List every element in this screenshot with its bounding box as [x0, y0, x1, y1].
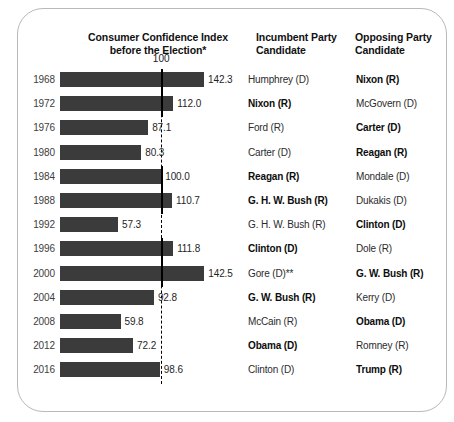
bar	[60, 145, 141, 160]
bar-value-label: 110.7	[176, 195, 200, 206]
opposing-candidate: McGovern (D)	[356, 98, 417, 109]
bar	[60, 169, 161, 184]
opposing-candidate: Kerry (D)	[356, 292, 395, 303]
bar-value-label: 92.8	[158, 292, 177, 303]
row-year-label: 2000	[25, 268, 55, 279]
bar	[60, 96, 173, 111]
bar-value-label: 111.8	[177, 243, 200, 254]
bar	[60, 193, 172, 208]
bar	[60, 217, 118, 232]
chart-card: Consumer Confidence Index before the Ele…	[17, 8, 447, 412]
opposing-candidate: Romney (R)	[356, 340, 408, 351]
chart-row: 1984100.0Reagan (R)Mondale (D)	[17, 166, 447, 190]
chart-row: 1996111.8Clinton (D)Dole (R)	[17, 238, 447, 262]
chart-row: 201698.6Clinton (D)Trump (R)	[17, 359, 447, 383]
incumbent-candidate: Obama (D)	[248, 340, 297, 351]
opposing-candidate: Trump (R)	[356, 364, 402, 375]
bar-value-label: 59.8	[125, 316, 144, 327]
bar-value-label: 87.1	[152, 122, 171, 133]
bar-value-label: 100.0	[165, 171, 190, 182]
row-year-label: 2004	[25, 292, 55, 303]
opposing-candidate: Obama (D)	[356, 316, 405, 327]
bar-value-label: 112.0	[177, 98, 201, 109]
chart-row: 197687.1Ford (R)Carter (D)	[17, 117, 447, 141]
bar	[60, 362, 160, 377]
chart-row: 1972112.0Nixon (R)McGovern (D)	[17, 93, 447, 117]
incumbent-candidate: G. H. W. Bush (R)	[248, 195, 328, 206]
bar-value-label: 142.5	[208, 268, 233, 279]
opposing-candidate: Mondale (D)	[356, 171, 409, 182]
row-year-label: 2016	[25, 364, 55, 375]
opposing-candidate: Nixon (R)	[356, 74, 399, 85]
reference-line-segment	[161, 238, 163, 262]
incumbent-candidate: Clinton (D)	[248, 364, 294, 375]
chart-row: 199257.3G. H. W. Bush (R)Clinton (D)	[17, 214, 447, 238]
bar-chart-plot: 1001968142.3Humphrey (D)Nixon (R)1972112…	[18, 9, 447, 412]
row-year-label: 1968	[25, 74, 55, 85]
chart-row: 198080.3Carter (D)Reagan (R)	[17, 142, 447, 166]
bar-value-label: 98.6	[164, 364, 183, 375]
incumbent-candidate: Carter (D)	[248, 147, 291, 158]
incumbent-candidate: Clinton (D)	[248, 243, 297, 254]
opposing-candidate: Clinton (D)	[356, 219, 405, 230]
row-year-label: 2012	[25, 340, 55, 351]
bar	[60, 290, 154, 305]
reference-line-segment	[161, 263, 163, 287]
bar	[60, 241, 173, 256]
opposing-candidate: Carter (D)	[356, 122, 401, 133]
row-year-label: 1972	[25, 98, 55, 109]
incumbent-candidate: G. W. Bush (R)	[248, 292, 315, 303]
chart-row: 1988110.7G. H. W. Bush (R)Dukakis (D)	[17, 190, 447, 214]
opposing-candidate: Reagan (R)	[356, 147, 407, 158]
chart-row: 201272.2Obama (D)Romney (R)	[17, 335, 447, 359]
bar	[60, 338, 133, 353]
reference-line-segment	[161, 190, 163, 214]
bar	[60, 120, 148, 135]
bar-value-label: 80.3	[145, 147, 164, 158]
reference-line-segment	[161, 93, 163, 117]
incumbent-candidate: McCain (R)	[248, 316, 297, 327]
bar-value-label: 142.3	[208, 74, 233, 85]
chart-row: 200492.8G. W. Bush (R)Kerry (D)	[17, 287, 447, 311]
opposing-candidate: Dukakis (D)	[356, 195, 407, 206]
bar-value-label: 57.3	[122, 219, 141, 230]
row-year-label: 1984	[25, 171, 55, 182]
opposing-candidate: Dole (R)	[356, 243, 392, 254]
incumbent-candidate: Humphrey (D)	[248, 74, 309, 85]
chart-row: 200859.8McCain (R)Obama (D)	[17, 311, 447, 335]
row-year-label: 1992	[25, 219, 55, 230]
incumbent-candidate: G. H. W. Bush (R)	[248, 219, 325, 230]
bar	[60, 266, 204, 281]
chart-row: 1968142.3Humphrey (D)Nixon (R)	[17, 69, 447, 93]
reference-line-label: 100	[153, 53, 170, 64]
row-year-label: 1980	[25, 147, 55, 158]
opposing-candidate: G. W. Bush (R)	[356, 268, 423, 279]
chart-row: 2000142.5Gore (D)**G. W. Bush (R)	[17, 263, 447, 287]
row-year-label: 1976	[25, 122, 55, 133]
row-year-label: 2008	[25, 316, 55, 327]
bar	[60, 314, 121, 329]
bar	[60, 72, 204, 87]
row-year-label: 1996	[25, 243, 55, 254]
incumbent-candidate: Ford (R)	[248, 122, 284, 133]
chart-page: Consumer Confidence Index before the Ele…	[0, 0, 454, 422]
incumbent-candidate: Gore (D)**	[248, 268, 293, 279]
reference-line-segment	[161, 69, 163, 93]
incumbent-candidate: Reagan (R)	[248, 171, 299, 182]
incumbent-candidate: Nixon (R)	[248, 98, 291, 109]
reference-line-segment	[161, 166, 163, 190]
row-year-label: 1988	[25, 195, 55, 206]
bar-value-label: 72.2	[137, 340, 156, 351]
